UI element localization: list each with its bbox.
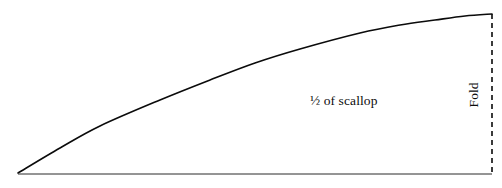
scallop-diagram: ½ of scallop Fold	[0, 0, 502, 188]
diagram-canvas	[0, 0, 502, 188]
diagram-background	[0, 0, 502, 188]
